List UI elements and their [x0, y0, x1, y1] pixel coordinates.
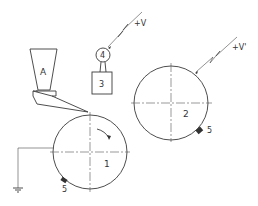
voltage-right-label: +V': [232, 43, 246, 52]
voltage-feed-right: +V': [195, 37, 246, 74]
hopper-label: A: [40, 67, 47, 77]
electrode-1: [60, 177, 67, 184]
drum-1: 1 5: [50, 112, 130, 194]
electrode-2: [195, 127, 203, 135]
drum-1-label: 1: [104, 159, 110, 169]
electrode-1-label: 5: [62, 185, 67, 194]
meter-label: 4: [100, 51, 105, 60]
electrode-2-label: 5: [207, 126, 212, 135]
drum-2-label: 2: [183, 109, 189, 119]
hopper: A: [30, 49, 88, 112]
drum-2: 2 5: [131, 63, 212, 142]
box-label: 3: [99, 80, 104, 89]
voltage-feed-top: +V: [108, 12, 147, 49]
meter-assembly: 4 3: [92, 48, 112, 94]
diagram: A 4 3 +V 1 5: [0, 0, 258, 206]
ground: [13, 148, 54, 192]
voltage-top-label: +V: [134, 19, 147, 28]
